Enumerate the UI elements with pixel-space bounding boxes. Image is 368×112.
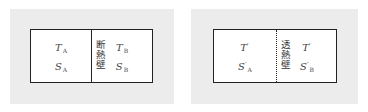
region-b-variables: T′ S′B xyxy=(287,39,327,77)
entropy-b: SB xyxy=(102,58,142,77)
region-b-variables: TB SB xyxy=(102,39,142,77)
temperature-a: T′ xyxy=(225,39,265,58)
entropy-b: S′B xyxy=(287,58,327,77)
temperature-b: TB xyxy=(102,39,142,58)
entropy-a: S′A xyxy=(225,58,265,77)
adiabatic-diagram-panel: TA SA 断熱壁 TB SB xyxy=(10,9,174,104)
diathermal-diagram-panel: T′ S′A 透熱壁 T′ S′B xyxy=(191,9,358,104)
region-a-variables: TA SA xyxy=(41,39,81,77)
region-a-variables: T′ S′A xyxy=(225,39,265,77)
diathermal-wall-line xyxy=(276,30,277,82)
temperature-a: TA xyxy=(41,39,81,58)
container-box: T′ S′A 透熱壁 T′ S′B xyxy=(213,29,337,83)
entropy-a: SA xyxy=(41,58,81,77)
container-box: TA SA 断熱壁 TB SB xyxy=(30,29,153,83)
adiabatic-wall-line xyxy=(91,30,92,82)
temperature-b: T′ xyxy=(287,39,327,58)
